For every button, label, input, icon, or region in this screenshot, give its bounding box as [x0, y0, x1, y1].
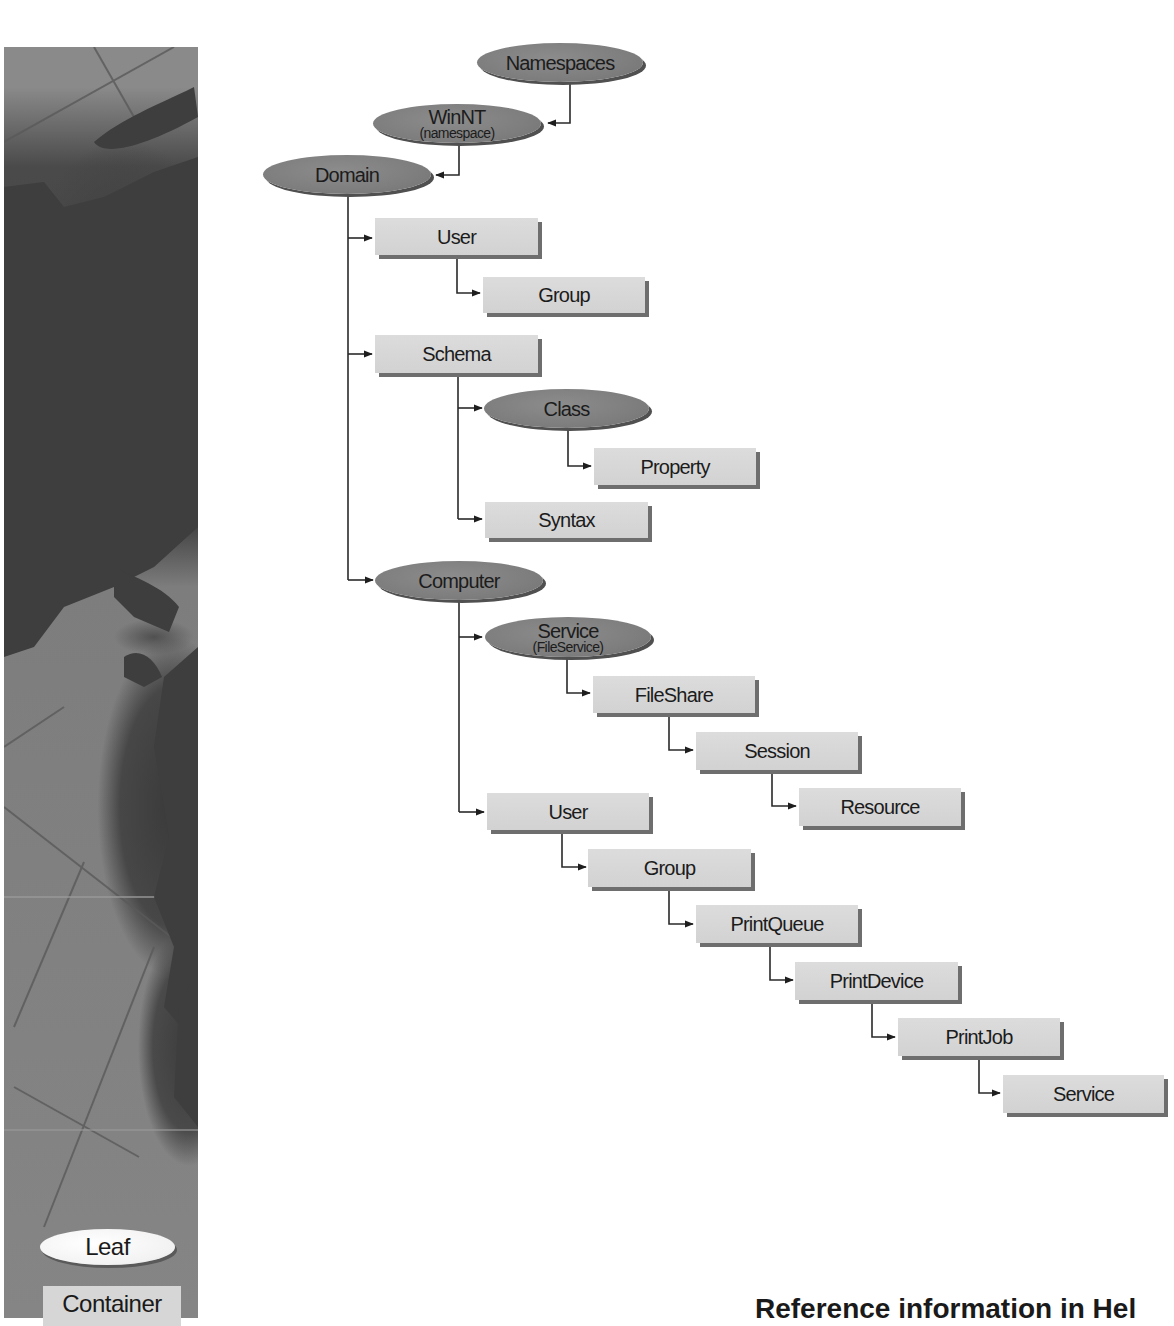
- node-domain: Domain: [263, 155, 431, 194]
- map-background-strip: [4, 47, 198, 1318]
- edge-session-resource: [772, 771, 796, 806]
- node-winnt: WinNT (namespace): [373, 104, 541, 143]
- node-computer-user: User: [487, 793, 649, 830]
- node-label: Session: [744, 741, 810, 761]
- node-class: Class: [484, 389, 649, 428]
- node-label: PrintDevice: [830, 971, 923, 991]
- node-service: Service: [1003, 1075, 1164, 1113]
- node-label: Resource: [840, 797, 919, 817]
- node-label: Group: [538, 285, 590, 305]
- node-sublabel: (FileService): [533, 640, 604, 654]
- legend-leaf-label: Leaf: [85, 1233, 130, 1261]
- edge-printjob-service: [979, 1057, 1000, 1093]
- edge-user-group: [457, 256, 480, 293]
- node-printjob: PrintJob: [898, 1018, 1060, 1056]
- node-computer: Computer: [375, 561, 543, 600]
- node-printqueue: PrintQueue: [696, 905, 858, 943]
- edge-service-fileshare: [567, 657, 590, 693]
- node-label: Domain: [315, 165, 379, 185]
- node-label: PrintJob: [946, 1027, 1013, 1047]
- node-syntax: Syntax: [485, 502, 648, 538]
- node-session: Session: [696, 732, 858, 770]
- edge-user-group-2: [562, 831, 586, 867]
- node-label: FileShare: [635, 685, 713, 705]
- node-label: Schema: [422, 344, 491, 364]
- node-property: Property: [594, 448, 756, 485]
- node-label: Service: [1053, 1084, 1114, 1104]
- node-label: Property: [640, 457, 709, 477]
- edge-winnt-domain: [436, 143, 459, 175]
- node-label: User: [548, 802, 587, 822]
- map-grid-lines: [4, 47, 198, 1318]
- edge-namespaces-winnt: [548, 83, 570, 123]
- node-label: Syntax: [538, 510, 594, 530]
- legend-container: Container: [43, 1286, 181, 1326]
- node-label: PrintQueue: [730, 914, 823, 934]
- node-domain-user: User: [375, 218, 538, 255]
- reference-heading: Reference information in Hel: [755, 1293, 1136, 1325]
- node-fileshare: FileShare: [593, 676, 755, 713]
- legend-leaf: Leaf: [40, 1229, 175, 1265]
- node-label: WinNT: [428, 107, 485, 127]
- edge-fileshare-session: [669, 714, 693, 750]
- edge-class-property: [568, 428, 591, 466]
- edge-printdevice-printjob: [872, 1001, 895, 1037]
- node-schema: Schema: [375, 335, 538, 373]
- edge-printqueue-printdevice: [770, 944, 793, 980]
- node-namespaces: Namespaces: [477, 43, 643, 82]
- edge-group-printqueue: [669, 888, 693, 924]
- node-label: User: [437, 227, 476, 247]
- node-label: Service: [537, 621, 598, 641]
- node-label: Group: [644, 858, 696, 878]
- node-label: Namespaces: [506, 53, 615, 73]
- node-domain-user-group: Group: [483, 277, 645, 313]
- node-sublabel: (namespace): [419, 126, 494, 140]
- node-label: Computer: [418, 571, 499, 591]
- node-label: Class: [543, 399, 589, 419]
- node-resource: Resource: [799, 788, 961, 826]
- node-printdevice: PrintDevice: [795, 962, 958, 1000]
- node-service-fileservice: Service (FileService): [485, 617, 651, 657]
- node-computer-group: Group: [588, 849, 751, 887]
- legend-container-label: Container: [62, 1290, 162, 1318]
